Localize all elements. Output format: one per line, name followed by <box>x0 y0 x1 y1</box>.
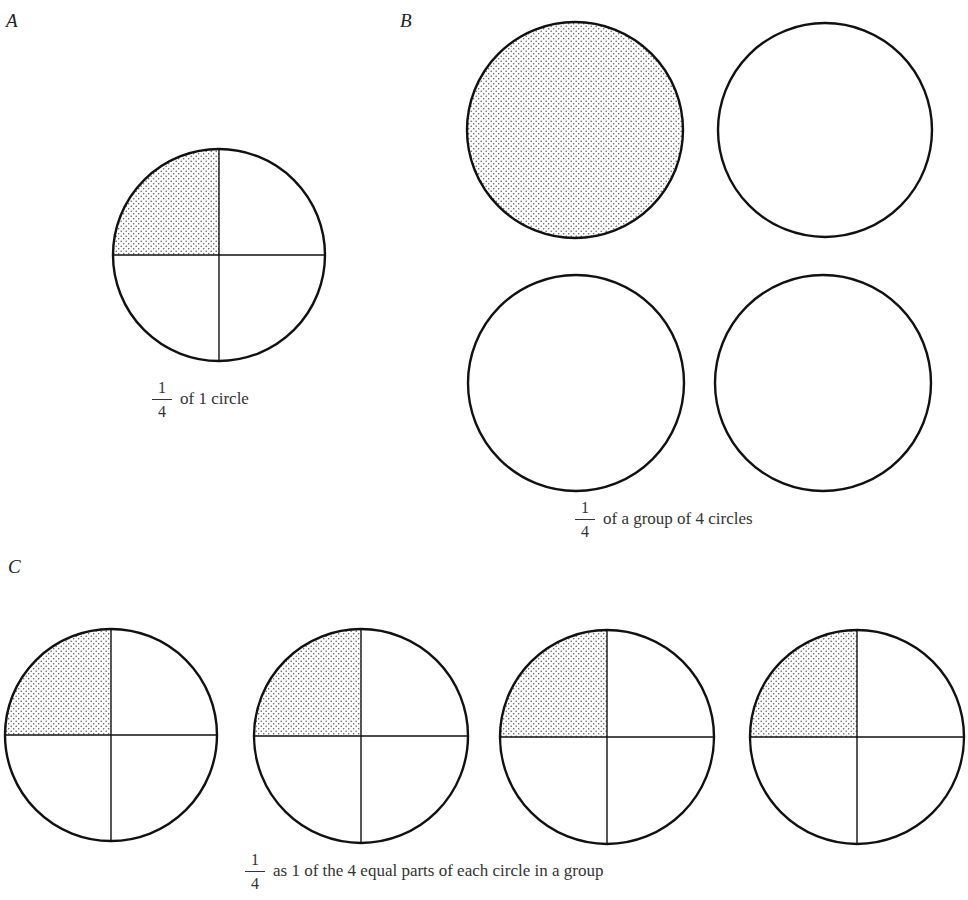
shaded-quarter <box>5 629 111 735</box>
panel-label-c: C <box>8 556 21 578</box>
circle-b-2 <box>718 23 932 237</box>
circle-b-3 <box>468 275 684 491</box>
fraction-denominator: 4 <box>158 400 166 420</box>
fraction-numerator: 1 <box>152 380 172 400</box>
caption-b: 1 4 of a group of 4 circles <box>575 500 753 540</box>
panel-label-a: A <box>6 10 18 32</box>
circle-b-1 <box>467 22 683 238</box>
circle-c-2 <box>254 629 468 843</box>
caption-text: as 1 of the 4 equal parts of each circle… <box>273 861 603 881</box>
shaded-quarter <box>750 630 857 737</box>
fraction-numerator: 1 <box>575 500 595 520</box>
panel-a <box>113 149 325 361</box>
fraction-denominator: 4 <box>581 520 589 540</box>
panel-c <box>5 629 964 844</box>
panel-label-b: B <box>400 10 412 32</box>
shaded-quarter <box>254 629 361 736</box>
circle-outline <box>718 23 932 237</box>
fraction-one-quarter: 1 4 <box>245 852 265 892</box>
circle-c-1 <box>5 629 217 841</box>
circle-outline <box>715 275 931 491</box>
fraction-one-quarter: 1 4 <box>575 500 595 540</box>
caption-c: 1 4 as 1 of the 4 equal parts of each ci… <box>245 852 603 892</box>
caption-text: of a group of 4 circles <box>603 509 753 529</box>
circle-outline <box>468 275 684 491</box>
caption-a: 1 4 of 1 circle <box>152 380 249 420</box>
shaded-quarter <box>113 149 219 255</box>
fraction-diagram <box>0 0 968 900</box>
shaded-quarter <box>500 630 607 737</box>
caption-text: of 1 circle <box>180 389 249 409</box>
fraction-numerator: 1 <box>245 852 265 872</box>
panel-b <box>467 22 932 491</box>
fraction-denominator: 4 <box>251 872 259 892</box>
circle-b-4 <box>715 275 931 491</box>
fraction-one-quarter: 1 4 <box>152 380 172 420</box>
circle-a-1 <box>113 149 325 361</box>
circle-c-4 <box>750 630 964 844</box>
circle-c-3 <box>500 630 714 844</box>
